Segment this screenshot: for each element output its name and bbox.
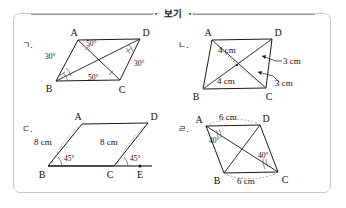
figure-ga: A D B C 30° 50° 50° 30° ㄱ. [22,26,172,98]
na-seg-oc: 3 cm [275,78,293,88]
figure-na-svg: A D B C 4 cm 3 cm 4 cm 3 cm [178,26,333,102]
ga-vertex-c: C [119,84,126,95]
da-vertex-e: E [137,169,143,180]
da-vertex-b: B [39,169,46,180]
ga-angle-dac: 50° [86,39,97,48]
figure-ra: A D B C 6 cm 40° 40° 6 cm ㄹ. [178,110,333,186]
ga-vertex-a: A [70,27,78,38]
figure-da: A D B C E 8 cm 45° 8 cm 45° ㄷ. [22,110,177,182]
ra-vertex-a: A [195,114,203,125]
da-seg-cd: 8 cm [100,137,118,147]
figure-na: A D B C 4 cm 3 cm 4 cm 3 cm ㄴ. [178,26,333,102]
da-angle-arc-c [124,157,128,166]
figure-ra-tag: ㄹ. [178,122,189,135]
figure-ga-tag: ㄱ. [22,38,33,51]
figure-ra-svg: A D B C 6 cm 40° 40° 6 cm [178,110,333,186]
ga-vertex-d: D [142,27,149,38]
na-vertex-c: C [266,91,273,102]
na-seg-od: 3 cm [283,56,301,66]
screenshot-root: 보기 A D B C 30° 50° [0,0,346,208]
ga-angle-bdc: 30° [134,59,145,68]
da-vertex-c: C [107,169,114,180]
ra-seg-ad: 6 cm [219,112,237,122]
ra-angle-dab: 40° [209,136,220,145]
na-vertex-b: B [193,91,200,102]
da-angle-arc-b [58,157,62,166]
figure-na-tag: ㄴ. [178,38,189,51]
da-angle-dce: 45° [130,154,141,163]
figure-da-tag: ㄷ. [22,122,33,135]
da-seg-ab: 8 cm [34,137,52,147]
figure-da-svg: A D B C E 8 cm 45° 8 cm 45° [22,110,177,182]
ra-vertex-b: B [214,175,221,186]
na-vertex-d: D [274,27,281,38]
da-vertex-a: A [74,111,82,122]
na-vertex-a: A [204,27,212,38]
na-center-point [236,64,238,66]
ga-vertex-b: B [46,83,53,94]
na-seg-bo: 4 cm [217,76,235,86]
na-arrowhead-od [262,55,266,59]
ra-vertex-d: D [262,113,269,124]
da-point-e [138,164,141,167]
da-vertex-d: D [150,111,157,122]
na-arrowhead-oc [258,71,262,75]
ra-vertex-c: C [282,174,289,185]
ra-diagonal-bd [224,125,260,173]
ga-angle-bac: 30° [45,52,56,61]
ra-seg-bc: 6 cm [237,176,255,186]
ga-angle-bca: 50° [88,73,99,82]
figure-ga-svg: A D B C 30° 50° 50° 30° [22,26,172,98]
da-angle-abc: 45° [64,154,75,163]
na-seg-ao: 4 cm [218,45,236,55]
ra-angle-bcd: 40° [258,151,269,160]
